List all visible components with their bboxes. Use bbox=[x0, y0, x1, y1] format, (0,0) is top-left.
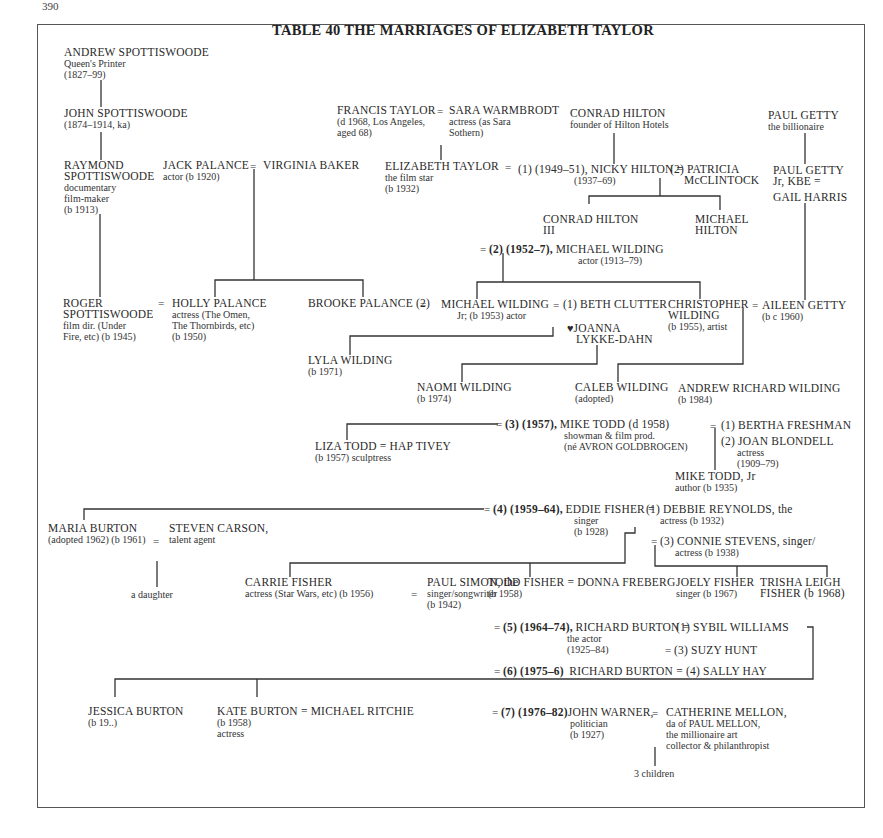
person-maria-burton: MARIA BURTON (adopted 1962) (b 1961) bbox=[48, 523, 145, 545]
marriage-symbol: = bbox=[420, 298, 426, 310]
person-gail-harris: GAIL HARRIS bbox=[773, 192, 847, 203]
person-francis-taylor: FRANCIS TAYLOR (d 1968, Los Angeles, age… bbox=[337, 105, 436, 138]
person-liza-todd: LIZA TODD = HAP TIVEY (b 1957) sculptres… bbox=[315, 441, 451, 463]
person-michael-wilding-jr: MICHAEL WILDING Jr; (b 1953) actor bbox=[441, 299, 549, 321]
person-aileen-getty: AILEEN GETTY (b c 1960) bbox=[762, 300, 846, 322]
person-roger-spottiswoode: ROGER SPOTTISWOODE film dir. (Under Fire… bbox=[63, 298, 154, 342]
person-nicky-hilton: (1) (1949–51), NICKY HILTON = (1937–69) bbox=[518, 164, 683, 186]
person-richard-burton-6: = (6) (1975–6) RICHARD BURTON = (4) SALL… bbox=[494, 666, 767, 677]
marriage-symbol: = bbox=[437, 105, 443, 117]
marriage-symbol: = bbox=[153, 535, 159, 547]
person-jack-palance: JACK PALANCE actor (b 1920) bbox=[163, 160, 249, 182]
person-andrew-richard-wilding: ANDREW RICHARD WILDING (b 1984) bbox=[678, 383, 840, 405]
person-richard-burton-5: = (5) (1964–74), RICHARD BURTON = the ac… bbox=[494, 622, 689, 655]
person-todd-fisher: TODD FISHER = DONNA FREBERG (b 1958) bbox=[488, 577, 675, 599]
person-joanna-lykke-dahn: ♥JOANNA LYKKE-DAHN bbox=[567, 323, 653, 345]
person-kate-burton: KATE BURTON = MICHAEL RITCHIE (b 1958) a… bbox=[217, 706, 414, 739]
person-paul-getty: PAUL GETTY the billionaire bbox=[768, 110, 839, 132]
marriage-symbol: = bbox=[250, 160, 256, 172]
person-michael-hilton: MICHAEL HILTON bbox=[695, 214, 749, 236]
person-connie-stevens: = (3) CONNIE STEVENS, singer/ actress (b… bbox=[651, 536, 816, 558]
marriage-symbol: = bbox=[752, 299, 758, 311]
marriage-symbol: = bbox=[652, 707, 658, 719]
person-eddie-fisher: = (4) (1959–64), EDDIE FISHER = singer (… bbox=[484, 504, 655, 537]
person-joan-blondell: (2) JOAN BLONDELL actress (1909–79) bbox=[721, 436, 834, 469]
person-patricia-mcclintock: (2) PATRICIA McCLINTOCK bbox=[670, 164, 759, 186]
person-bertha-freshman: (1) BERTHA FRESHMAN bbox=[721, 420, 851, 431]
marriage-symbol: = bbox=[411, 588, 417, 600]
person-trisha-leigh-fisher: TRISHA LEIGH FISHER (b 1968) bbox=[760, 577, 845, 599]
person-steven-carson: STEVEN CARSON, talent agent bbox=[169, 523, 268, 545]
person-joely-fisher: JOELY FISHER singer (b 1967) bbox=[676, 577, 754, 599]
person-mike-todd-jr: MIKE TODD, Jr author (b 1935) bbox=[675, 471, 755, 493]
person-conrad-hilton-iii: CONRAD HILTON III bbox=[543, 214, 639, 236]
marriage-symbol: = bbox=[553, 299, 559, 311]
person-conrad-hilton: CONRAD HILTON founder of Hilton Hotels bbox=[570, 108, 669, 130]
person-raymond-spottiswoode: RAYMOND SPOTTISWOODE documentary film-ma… bbox=[64, 160, 155, 215]
person-sara-warmbrodt: SARA WARMBRODT actress (as Sara Sothern) bbox=[449, 105, 559, 138]
person-john-warner: = (7) (1976–82)JOHN WARNER, politician (… bbox=[492, 707, 654, 740]
marriage-symbol: = bbox=[158, 297, 164, 309]
marriage-symbol: = bbox=[710, 420, 716, 432]
person-a-daughter: a daughter bbox=[131, 589, 173, 600]
person-christopher-wilding: CHRISTOPHER WILDING (b 1955), artist bbox=[668, 299, 749, 332]
person-lyla-wilding: LYLA WILDING (b 1971) bbox=[308, 355, 392, 377]
person-john-spottiswoode: JOHN SPOTTISWOODE (1874–1914, ka) bbox=[64, 108, 188, 130]
person-andrew-spottiswoode: ANDREW SPOTTISWOODE Queen's Printer (182… bbox=[64, 47, 209, 80]
person-michael-wilding: = (2) (1952–7), MICHAEL WILDING actor (1… bbox=[480, 244, 664, 266]
person-catherine-mellon: CATHERINE MELLON, da of PAUL MELLON, the… bbox=[666, 707, 787, 751]
person-jessica-burton: JESSICA BURTON (b 19..) bbox=[88, 706, 184, 728]
person-beth-clutter: (1) BETH CLUTTER bbox=[563, 299, 667, 310]
person-brooke-palance: BROOKE PALANCE (2) bbox=[308, 298, 430, 309]
person-mike-todd: = (3) (1957), MIKE TODD (d 1958) showman… bbox=[496, 419, 688, 452]
person-paul-getty-jr: PAUL GETTY Jr, KBE = bbox=[773, 165, 844, 187]
person-debbie-reynolds: (1) DEBBIE REYNOLDS, the actress (b 1932… bbox=[646, 504, 793, 526]
marriage-symbol: = bbox=[505, 161, 511, 173]
person-sybil-williams: (1) SYBIL WILLIAMS bbox=[676, 622, 789, 633]
person-caleb-wilding: CALEB WILDING (adopted) bbox=[575, 382, 668, 404]
person-three-children: 3 children bbox=[634, 768, 674, 779]
person-holly-palance: HOLLY PALANCE actress (The Omen, The Tho… bbox=[172, 298, 267, 342]
person-naomi-wilding: NAOMI WILDING (b 1974) bbox=[417, 382, 512, 404]
person-elizabeth-taylor: ELIZABETH TAYLOR the film star (b 1932) bbox=[385, 161, 499, 194]
person-virginia-baker: VIRGINIA BAKER bbox=[263, 160, 359, 171]
person-carrie-fisher: CARRIE FISHER actress (Star Wars, etc) (… bbox=[245, 577, 373, 599]
person-suzy-hunt: = (3) SUZY HUNT bbox=[665, 645, 757, 656]
